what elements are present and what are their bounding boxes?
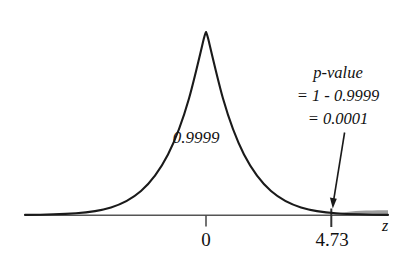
x-tick-label-0: 0: [186, 230, 226, 250]
normal-curve-figure: 0.9999 p-value = 1 - 0.9999 = 0.0001 0 4…: [0, 0, 409, 271]
pvalue-line-2: = 1 - 0.9999: [273, 85, 403, 108]
x-tick-label-4.73: 4.73: [303, 230, 361, 250]
area-probability-label: 0.9999: [0, 129, 392, 147]
x-axis-label: z: [372, 218, 398, 235]
pvalue-line-1: p-value: [273, 62, 403, 85]
pvalue-annotation: p-value = 1 - 0.9999 = 0.0001: [273, 62, 403, 130]
pvalue-line-3: = 0.0001: [273, 108, 403, 131]
